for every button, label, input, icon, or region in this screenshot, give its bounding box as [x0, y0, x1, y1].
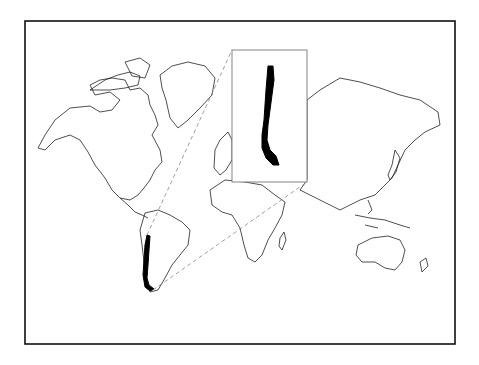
new-zealand [420, 258, 428, 272]
leader-line-bottom [153, 182, 307, 290]
japan [388, 150, 400, 180]
madagascar [279, 232, 286, 250]
asia [300, 78, 440, 210]
australia [356, 236, 405, 270]
africa [210, 180, 285, 262]
arctic-islands [90, 58, 150, 90]
inset-box [232, 50, 307, 182]
world-map [0, 0, 479, 365]
greenland [160, 62, 215, 128]
north-america [38, 78, 162, 200]
europe [214, 132, 232, 175]
chile-highlight [143, 235, 154, 291]
central-america [120, 198, 148, 218]
southeast-asia-islands [355, 200, 410, 228]
leader-line-top [147, 50, 232, 235]
